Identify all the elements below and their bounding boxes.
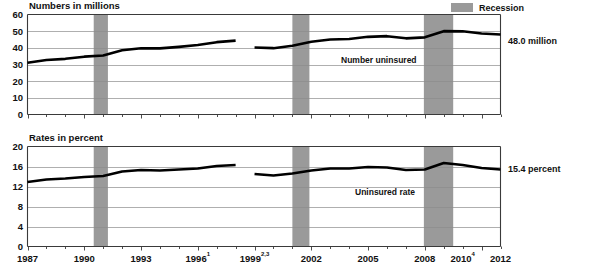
y-tick-label: 16 <box>12 161 23 172</box>
y-tick-label: 60 <box>12 9 23 20</box>
y-tick-label: 4 <box>18 221 24 232</box>
y-tick-label: 12 <box>12 181 23 192</box>
bottom-x-tickmarks <box>29 247 502 251</box>
bottom-series-label: Uninsured rate <box>355 187 415 197</box>
y-tick-label: 0 <box>18 109 23 120</box>
top-x-tickmarks <box>29 115 502 119</box>
y-tick-label: 30 <box>12 59 23 70</box>
recession-band <box>94 15 108 115</box>
y-tick-label: 0 <box>18 241 23 252</box>
top-panel-axis-title: Numbers in millions <box>29 0 120 11</box>
top-end-value-label: 48.0 million <box>508 36 557 46</box>
chart-container: Recession Numbers in millions 6050403020… <box>0 0 590 273</box>
recession-band <box>424 147 453 247</box>
y-tick-label: 10 <box>12 92 23 103</box>
data-line-number-uninsured <box>255 31 501 48</box>
y-tick-label: 50 <box>12 26 23 37</box>
y-tick-label: 20 <box>12 76 23 87</box>
y-tick-label: 20 <box>12 141 23 152</box>
recession-band <box>292 147 309 247</box>
x-axis-tick-label: 1990 <box>74 253 95 264</box>
x-axis-tick-label: 19992,3 <box>240 251 270 264</box>
recession-band <box>424 15 453 115</box>
x-axis-tick-label: 20104 <box>450 251 475 264</box>
y-tick-label: 8 <box>18 201 23 212</box>
recession-band <box>94 147 108 247</box>
x-axis-tick-label: 2012 <box>490 253 511 264</box>
data-line-number-uninsured <box>28 41 236 63</box>
x-axis-tick-label: 2008 <box>414 253 435 264</box>
uninsured-chart-figure: Recession Numbers in millions 6050403020… <box>0 0 590 273</box>
x-axis-tick-label: 19961 <box>186 251 211 264</box>
x-axis-tick-label: 1987 <box>17 253 38 264</box>
recession-band <box>292 15 309 115</box>
legend: Recession <box>451 3 524 13</box>
data-line-uninsured-rate <box>255 163 501 176</box>
x-axis-tick-labels: 1987199019931996119992,32002200520082010… <box>17 251 511 264</box>
x-axis-tick-label: 2002 <box>301 253 322 264</box>
x-axis-tick-label: 1993 <box>130 253 151 264</box>
bottom-panel-axis-title: Rates in percent <box>29 132 104 143</box>
x-axis-tick-label: 2005 <box>357 253 379 264</box>
bottom-y-tick-labels: 201612840 <box>12 141 23 252</box>
bottom-end-value-label: 15.4 percent <box>508 164 561 174</box>
top-y-tick-labels: 6050403020100 <box>12 9 23 120</box>
recession-legend-swatch <box>451 3 473 12</box>
y-tick-label: 40 <box>12 42 23 53</box>
panel-number-uninsured: Numbers in millions 6050403020100 Number… <box>12 0 557 120</box>
panel-uninsured-rate: Rates in percent 201612840 Uninsured rat… <box>12 132 560 252</box>
recession-legend-label: Recession <box>479 3 524 13</box>
top-series-label: Number uninsured <box>341 55 417 65</box>
